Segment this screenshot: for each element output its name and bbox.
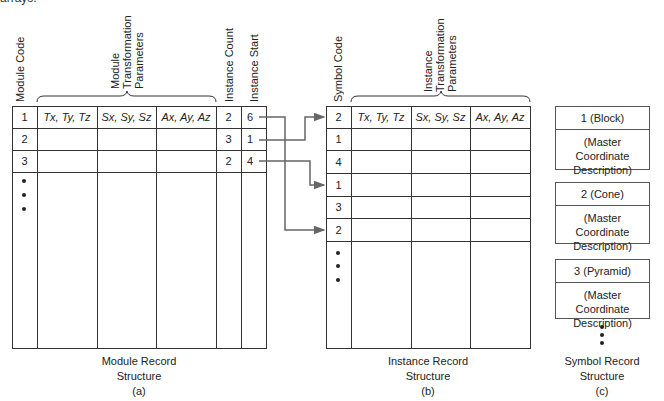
symbol-title: 3 (Pyramid): [556, 260, 649, 283]
instance-count-cell: 3: [216, 128, 241, 150]
translate-cell: Tx, Ty, Tz: [37, 106, 97, 128]
instance-count-cell: 2: [216, 150, 241, 172]
module-code-cell: 2: [12, 128, 37, 150]
instance-brace: [351, 91, 530, 102]
ellipsis-dot-icon: [600, 325, 604, 329]
symbol-code-cell: 3: [326, 196, 351, 218]
ellipsis-dot-icon: [336, 264, 340, 268]
symbol-record-box: 2 (Cone) (Master Coordinate Description): [555, 182, 650, 244]
ellipsis-dot-icon: [22, 179, 26, 183]
symbol-description: (Master Coordinate Description): [556, 283, 649, 330]
arrow-start-6: [259, 117, 324, 230]
ellipsis-dot-icon: [22, 207, 26, 211]
symbol-description: (Master Coordinate Description): [556, 130, 649, 177]
translate-cell: Tx, Ty, Tz: [351, 106, 411, 128]
symbol-code-cell: 2: [326, 218, 351, 241]
symbol-record-box: 3 (Pyramid) (Master Coordinate Descripti…: [555, 259, 650, 319]
module-caption: Module Record Structure (a): [89, 354, 189, 399]
ellipsis-dot-icon: [336, 251, 340, 255]
instance-table-grid: [326, 106, 531, 349]
scale-cell: Sx, Sy, Sz: [97, 106, 156, 128]
instance-count-cell: 2: [216, 106, 241, 128]
instance-start-cell: 1: [241, 128, 259, 150]
arrow-start-4: [259, 161, 324, 185]
rotate-cell: Ax, Ay, Az: [156, 106, 216, 128]
symbol-code-cell: 2: [326, 106, 351, 128]
ellipsis-dot-icon: [336, 278, 340, 282]
symbol-code-cell: 1: [326, 173, 351, 196]
instance-start-cell: 4: [241, 150, 259, 172]
symbol-description: (Master Coordinate Description): [556, 206, 649, 253]
instance-start-cell: 6: [241, 106, 259, 128]
scale-cell: Sx, Sy, Sz: [411, 106, 470, 128]
symbol-title: 2 (Cone): [556, 183, 649, 206]
instance-caption: Instance Record Structure (b): [378, 354, 478, 399]
symbol-record-box: 1 (Block) (Master Coordinate Description…: [555, 106, 650, 170]
ellipsis-dot-icon: [22, 193, 26, 197]
symbol-code-cell: 1: [326, 128, 351, 150]
module-code-cell: 3: [12, 150, 37, 172]
symbol-code-cell: 4: [326, 150, 351, 173]
symbol-title: 1 (Block): [556, 107, 649, 130]
module-brace: [37, 91, 216, 102]
ellipsis-dot-icon: [600, 333, 604, 337]
ellipsis-dot-icon: [600, 341, 604, 345]
arrow-start-1: [259, 117, 324, 140]
module-code-cell: 1: [12, 106, 37, 128]
rotate-cell: Ax, Ay, Az: [470, 106, 530, 128]
symbol-caption: Symbol Record Structure (c): [552, 354, 652, 399]
